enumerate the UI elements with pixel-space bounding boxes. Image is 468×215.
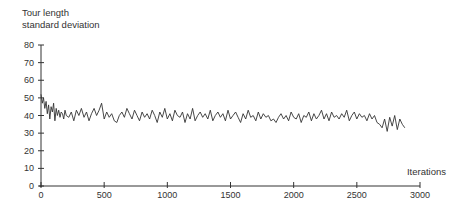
y-tick-label: 70 xyxy=(24,58,34,68)
y-tick-label: 80 xyxy=(24,40,34,50)
x-tick-label: 3000 xyxy=(410,190,430,200)
x-tick-label: 2000 xyxy=(284,190,304,200)
y-axis: 01020304050607080 xyxy=(24,40,44,191)
y-tick-label: 40 xyxy=(24,111,34,121)
x-tick-label: 1500 xyxy=(220,190,240,200)
x-tick-label: 2500 xyxy=(347,190,367,200)
x-tick-label: 1000 xyxy=(157,190,177,200)
y-tick-label: 50 xyxy=(24,93,34,103)
x-axis: 050010001500200025003000 xyxy=(38,182,430,200)
y-tick-label: 20 xyxy=(24,146,34,156)
y-tick-label: 60 xyxy=(24,75,34,85)
y-tick-label: 0 xyxy=(29,181,34,191)
x-tick-label: 500 xyxy=(97,190,112,200)
line-chart: 01020304050607080 0500100015002000250030… xyxy=(0,0,468,215)
series-line xyxy=(41,94,405,131)
y-tick-label: 30 xyxy=(24,128,34,138)
y-tick-label: 10 xyxy=(24,163,34,173)
x-axis-title: Iterations xyxy=(407,166,446,177)
x-tick-label: 0 xyxy=(38,190,43,200)
